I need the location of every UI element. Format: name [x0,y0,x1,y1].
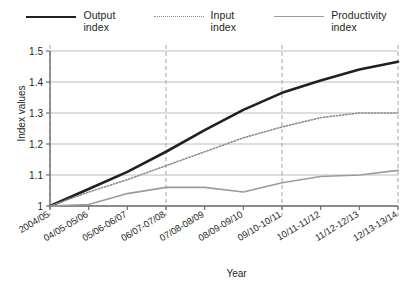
y-tick-label: 1.5 [29,46,43,57]
data-line-output [50,62,398,206]
x-tick-label: 2004/05 [17,209,51,235]
y-tick-labels: 11.11.21.31.41.5 [29,46,50,212]
y-tick-label: 1.2 [29,139,43,150]
data-series-group [50,62,398,206]
y-tick-label: 1.4 [29,77,43,88]
y-tick-label: 1.1 [29,170,43,181]
data-line-input [50,113,398,206]
x-tick-label: 12/13-13/14 [351,209,399,243]
x-tick-label: 09/10-10/11 [236,209,283,243]
x-tick-labels: 2004/0504/05-05/0605/06-06/0706/07-07/08… [17,206,399,243]
y-tick-label: 1.3 [29,108,43,119]
y-tick-label: 1 [37,201,43,212]
chart-plot-area: 11.11.21.31.41.5 2004/0504/05-05/0605/06… [0,0,413,288]
chart-figure: Output index Input index Productivity in… [0,0,413,288]
